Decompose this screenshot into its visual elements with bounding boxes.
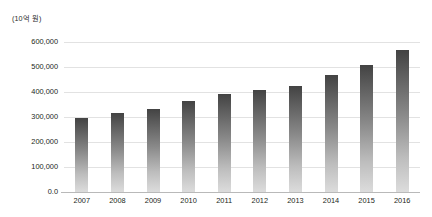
- x-axis-tick-label: 2013: [275, 197, 315, 204]
- y-axis-tick-label: 0.0: [0, 188, 58, 195]
- bar-column[interactable]: [75, 42, 88, 192]
- x-axis-tick-label: 2008: [97, 197, 137, 204]
- y-axis-tick-label: 600,000: [0, 38, 58, 45]
- bar-chart: (10억 원) 600,000500,000400,000300,000200,…: [0, 0, 432, 217]
- bar-column[interactable]: [396, 42, 409, 192]
- axis-baseline: [61, 192, 420, 193]
- y-axis-tick-label: 500,000: [0, 63, 58, 70]
- bar-column[interactable]: [182, 42, 195, 192]
- x-axis-tick-label: 2007: [62, 197, 102, 204]
- bar-column[interactable]: [360, 42, 373, 192]
- x-axis-tick-label: 2012: [240, 197, 280, 204]
- bar[interactable]: [182, 101, 195, 192]
- bar-column[interactable]: [218, 42, 231, 192]
- bar-column[interactable]: [111, 42, 124, 192]
- bar-column[interactable]: [325, 42, 338, 192]
- bar-column[interactable]: [253, 42, 266, 192]
- bar[interactable]: [75, 118, 88, 192]
- bar[interactable]: [360, 65, 373, 192]
- y-axis-tick-label: 100,000: [0, 163, 58, 170]
- x-axis-tick-label: 2011: [204, 197, 244, 204]
- bar[interactable]: [147, 109, 160, 192]
- bar[interactable]: [396, 50, 409, 193]
- x-axis-tick-label: 2014: [311, 197, 351, 204]
- bar-column[interactable]: [289, 42, 302, 192]
- plot-area: [64, 42, 420, 192]
- y-axis-tick-label: 200,000: [0, 138, 58, 145]
- bar-column[interactable]: [147, 42, 160, 192]
- y-axis-unit-label: (10억 원): [12, 13, 41, 23]
- bars-group: [64, 42, 420, 192]
- x-axis-tick-label: 2016: [382, 197, 422, 204]
- bar[interactable]: [253, 90, 266, 193]
- bar[interactable]: [111, 113, 124, 193]
- bar[interactable]: [218, 94, 231, 192]
- bar[interactable]: [325, 75, 338, 193]
- y-axis-tick-label: 400,000: [0, 88, 58, 95]
- x-axis-tick-label: 2009: [133, 197, 173, 204]
- x-axis-tick-label: 2015: [347, 197, 387, 204]
- bar[interactable]: [289, 86, 302, 192]
- x-axis-tick-label: 2010: [169, 197, 209, 204]
- y-axis-tick-label: 300,000: [0, 113, 58, 120]
